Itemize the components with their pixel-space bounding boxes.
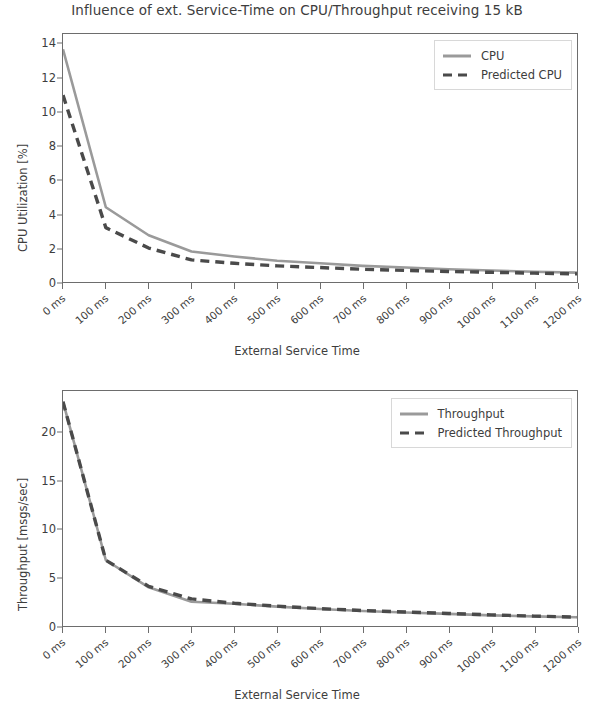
cpu-x-axis-label: External Service Time	[0, 344, 594, 358]
cpu-legend-item-predicted: Predicted CPU	[442, 65, 562, 84]
throughput-x-tick-labels: 0 ms100 ms200 ms300 ms400 ms500 ms600 ms…	[62, 634, 578, 694]
throughput-x-axis-label: External Service Time	[0, 688, 594, 702]
throughput-x-tick-mark	[320, 627, 321, 633]
cpu-x-tick-mark	[191, 283, 192, 289]
cpu-legend: CPU Predicted CPU	[434, 40, 572, 90]
cpu-x-tick-mark	[234, 283, 235, 289]
dashed-line-swatch-icon	[399, 428, 429, 438]
throughput-x-tick-mark	[363, 627, 364, 633]
throughput-x-tick-mark	[191, 627, 192, 633]
dashed-line-swatch-icon	[442, 70, 472, 80]
cpu-legend-item-measured: CPU	[442, 46, 562, 65]
cpu-x-tick-labels: 0 ms100 ms200 ms300 ms400 ms500 ms600 ms…	[62, 290, 578, 350]
cpu-x-tick-mark	[148, 283, 149, 289]
throughput-x-tick-mark	[234, 627, 235, 633]
solid-line-swatch-icon	[399, 409, 429, 419]
cpu-x-tick-mark	[363, 283, 364, 289]
cpu-x-tick-mark	[62, 283, 63, 289]
throughput-x-tick-mark	[492, 627, 493, 633]
throughput-x-tick-mark	[578, 627, 579, 633]
cpu-legend-label-predicted: Predicted CPU	[481, 68, 562, 82]
page-title: Influence of ext. Service-Time on CPU/Th…	[0, 2, 594, 18]
cpu-y-tick-marks	[0, 33, 62, 283]
cpu-series-predicted	[63, 95, 577, 274]
cpu-x-tick-mark	[535, 283, 536, 289]
cpu-x-tick-mark	[320, 283, 321, 289]
throughput-x-tick-mark	[406, 627, 407, 633]
cpu-x-tick-mark	[449, 283, 450, 289]
cpu-x-tick-mark	[277, 283, 278, 289]
throughput-x-tick-mark	[148, 627, 149, 633]
throughput-legend-label-predicted: Predicted Throughput	[438, 426, 562, 440]
throughput-x-tick-mark	[449, 627, 450, 633]
cpu-x-tick-mark	[492, 283, 493, 289]
cpu-x-tick-mark	[578, 283, 579, 289]
throughput-y-tick-marks	[0, 390, 62, 627]
throughput-x-tick-mark	[105, 627, 106, 633]
cpu-legend-label-measured: CPU	[481, 49, 504, 63]
throughput-x-tick-mark	[62, 627, 63, 633]
throughput-x-tick-mark	[535, 627, 536, 633]
cpu-x-tick-mark	[406, 283, 407, 289]
cpu-x-tick-marks	[62, 283, 578, 289]
throughput-x-tick-marks	[62, 627, 578, 633]
cpu-x-tick-mark	[105, 283, 106, 289]
throughput-legend: Throughput Predicted Throughput	[391, 398, 572, 448]
throughput-legend-label-measured: Throughput	[438, 407, 505, 421]
cpu-chart-figure: CPU Utilization [%] 02468101214 0 ms100 …	[0, 24, 594, 364]
throughput-legend-item-predicted: Predicted Throughput	[399, 423, 562, 442]
throughput-x-tick-mark	[277, 627, 278, 633]
throughput-chart-figure: Throughput [msgs/sec] 05101520 0 ms100 m…	[0, 380, 594, 714]
throughput-legend-item-measured: Throughput	[399, 404, 562, 423]
solid-line-swatch-icon	[442, 51, 472, 61]
